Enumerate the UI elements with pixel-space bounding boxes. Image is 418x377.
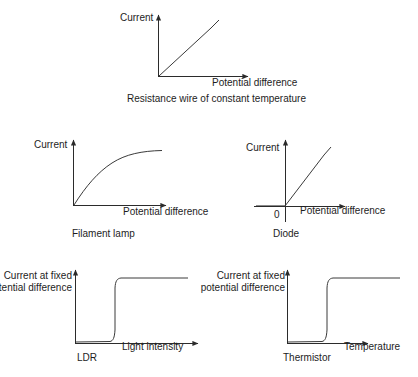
axis-label-current-diode: Current [246,142,279,154]
axis-label-potential-difference-resistance-wire: Potential difference [212,77,297,89]
chart-thermistor-axes [288,270,369,344]
caption-ldr: LDR [77,352,97,364]
series-filament-lamp [74,151,162,206]
series-ldr [76,278,188,342]
component-characteristic-graphs-figure: Current Potential difference Resistance … [0,0,418,377]
series-diode-forward-bias [285,147,331,206]
axis-label-current-fixed-pd-thermistor: Current at fixed potential difference [193,270,285,293]
chart-resistance-wire-axes [159,15,249,77]
axis-label-current-fixed-pd-ldr: Current at fixed potential difference [0,270,72,293]
axis-label-potential-difference-filament-lamp: Potential difference [123,206,208,218]
chart-filament-lamp-axes [74,140,167,206]
axis-label-current-resistance-wire: Current [120,12,153,24]
origin-label-diode: 0 [274,209,280,221]
series-thermistor [288,278,400,342]
caption-resistance-wire: Resistance wire of constant temperature [127,93,306,105]
axis-label-light-intensity-ldr: Light intensity [122,341,183,353]
series-resistance-wire [159,20,219,76]
caption-thermistor: Thermistor [283,352,331,364]
chart-ldr-axes [76,270,199,344]
axis-label-potential-difference-diode: Potential difference [300,205,385,217]
axis-label-temperature-thermistor: Temperature [344,341,400,353]
caption-diode: Diode [273,228,299,240]
caption-filament-lamp: Filament lamp [72,228,135,240]
graphs-canvas [0,0,418,377]
axis-label-current-filament-lamp: Current [34,139,67,151]
